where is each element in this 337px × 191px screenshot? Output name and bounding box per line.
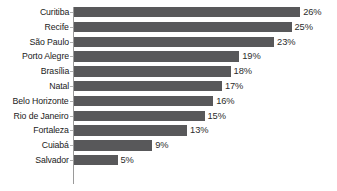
axis-tick	[70, 86, 73, 87]
bar-row: Belo Horizonte16%	[0, 96, 337, 111]
bar-value-label: 9%	[155, 140, 168, 151]
bar-value-label: 19%	[242, 51, 260, 62]
axis-tick	[70, 12, 73, 13]
bar	[74, 22, 292, 32]
bar-row: Salvador5%	[0, 155, 337, 170]
category-label: Rio de Janeiro	[14, 111, 69, 122]
bar-row: Recife25%	[0, 22, 337, 37]
category-label: São Paulo	[30, 37, 69, 48]
bar-row: Brasília18%	[0, 66, 337, 81]
axis-tick	[70, 145, 73, 146]
bar-row: Natal17%	[0, 81, 337, 96]
bar-value-label: 16%	[216, 96, 234, 107]
bar-value-label: 26%	[303, 7, 321, 18]
bar	[74, 140, 152, 150]
bar-value-label: 17%	[225, 81, 243, 92]
bar	[74, 155, 118, 165]
bar-row: Cuiabá9%	[0, 140, 337, 155]
bar-value-label: 23%	[277, 37, 295, 48]
category-label: Fortaleza	[33, 125, 69, 136]
category-label: Belo Horizonte	[13, 96, 69, 107]
axis-tick	[70, 116, 73, 117]
bar-row: São Paulo23%	[0, 37, 337, 52]
bar	[74, 111, 205, 121]
bar-value-label: 25%	[295, 22, 313, 33]
bar-row: Fortaleza13%	[0, 125, 337, 140]
bar-value-label: 5%	[121, 155, 134, 166]
bar-row: Rio de Janeiro15%	[0, 111, 337, 126]
bar	[74, 66, 231, 76]
bar	[74, 81, 222, 91]
category-label: Natal	[49, 81, 69, 92]
axis-tick	[70, 71, 73, 72]
bar-value-label: 13%	[190, 125, 208, 136]
bar	[74, 7, 300, 17]
bar-value-label: 18%	[234, 66, 252, 77]
bar-chart: Curitiba26%Recife25%São Paulo23%Porto Al…	[0, 0, 337, 191]
axis-tick	[70, 101, 73, 102]
axis-tick	[70, 56, 73, 57]
axis-tick	[70, 42, 73, 43]
axis-tick	[70, 130, 73, 131]
category-label: Curitiba	[40, 7, 69, 18]
bar-row: Curitiba26%	[0, 7, 337, 22]
category-label: Recife	[45, 22, 69, 33]
axis-tick	[70, 27, 73, 28]
bar	[74, 37, 274, 47]
category-label: Porto Alegre	[22, 51, 69, 62]
category-label: Cuiabá	[42, 140, 69, 151]
bar-row: Porto Alegre19%	[0, 51, 337, 66]
bar	[74, 96, 213, 106]
bar	[74, 125, 187, 135]
bar	[74, 51, 239, 61]
bar-rows-container: Curitiba26%Recife25%São Paulo23%Porto Al…	[0, 7, 337, 170]
category-label: Salvador	[35, 155, 69, 166]
bar-value-label: 15%	[208, 111, 226, 122]
axis-tick	[70, 160, 73, 161]
category-label: Brasília	[41, 66, 69, 77]
